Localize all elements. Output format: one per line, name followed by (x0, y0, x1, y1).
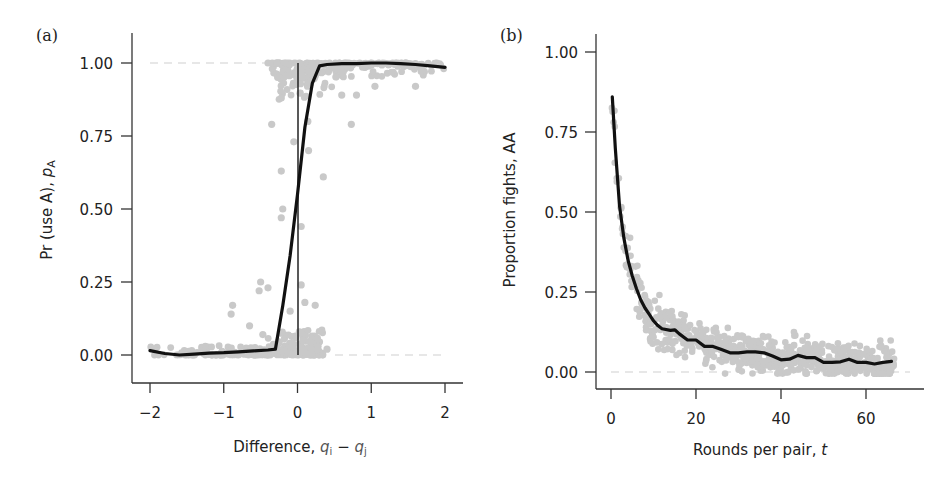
data-point (762, 358, 769, 365)
data-point (371, 83, 378, 90)
data-point (877, 337, 884, 344)
data-point (309, 60, 316, 67)
data-point (281, 336, 288, 343)
data-point (782, 339, 789, 346)
data-point (661, 347, 668, 354)
data-point (278, 167, 285, 174)
data-point (790, 367, 797, 374)
data-point (340, 74, 347, 81)
x-tick-label: 0 (606, 410, 616, 428)
data-point (869, 348, 876, 355)
data-point (282, 60, 289, 67)
data-point (646, 321, 653, 328)
data-point (815, 362, 822, 369)
y-tick-label: 0.75 (80, 128, 113, 146)
data-point (835, 340, 842, 347)
data-point (682, 354, 689, 361)
data-point (687, 322, 694, 329)
data-point (305, 147, 312, 154)
data-point (791, 329, 798, 336)
data-point (412, 83, 419, 90)
data-point (348, 121, 355, 128)
data-point (302, 349, 309, 356)
data-point (727, 343, 734, 350)
data-point (827, 366, 834, 373)
data-point (301, 299, 308, 306)
data-point (293, 70, 300, 77)
data-point (316, 91, 323, 98)
y-tick-label: 0.00 (545, 364, 578, 382)
data-point (278, 214, 285, 221)
data-point (228, 345, 235, 352)
x-tick-label: −2 (139, 404, 161, 422)
data-point (388, 69, 395, 76)
y-tick-label: 0.00 (80, 347, 113, 365)
data-point (251, 352, 258, 359)
data-point (697, 325, 704, 332)
data-point (299, 337, 306, 344)
panel-a-x-axis-label: Difference, qi − qj (233, 438, 367, 457)
panel-a-x-axis: −2−1012 (132, 383, 463, 422)
data-point (246, 322, 253, 329)
data-point (314, 335, 321, 342)
data-point (264, 284, 271, 291)
data-point (353, 92, 360, 99)
data-point (887, 337, 894, 344)
panel-b-y-axis-label: Proportion fights, AA (501, 132, 519, 288)
data-point (290, 351, 297, 358)
data-point (167, 344, 174, 351)
data-point (775, 368, 782, 375)
data-point (257, 278, 264, 285)
data-point (804, 333, 811, 340)
panel-b-fitted-curve (612, 97, 891, 364)
data-point (370, 68, 377, 75)
data-point (264, 59, 271, 66)
data-point (656, 292, 663, 299)
data-point (287, 308, 294, 315)
data-point (886, 369, 893, 376)
panel-b-scatter-points (609, 105, 898, 377)
data-point (758, 340, 765, 347)
data-point (320, 173, 327, 180)
data-point (328, 83, 335, 90)
data-point (713, 329, 720, 336)
data-point (735, 334, 742, 341)
y-tick-label: 0.75 (545, 124, 578, 142)
data-point (333, 74, 340, 81)
x-tick-label: 40 (771, 410, 790, 428)
data-point (651, 298, 658, 305)
data-point (730, 359, 737, 366)
data-point (803, 362, 810, 369)
data-point (278, 82, 285, 89)
data-point (716, 357, 723, 364)
data-point (338, 92, 345, 99)
panel-a-y-axis-label: Pr (use A), pA (38, 160, 58, 260)
data-point (296, 328, 303, 335)
data-point (256, 287, 263, 294)
data-point (274, 351, 281, 358)
data-point (316, 328, 323, 335)
data-point (796, 365, 803, 372)
data-point (335, 66, 342, 73)
data-point (259, 331, 266, 338)
data-point (312, 302, 319, 309)
data-point (681, 347, 688, 354)
data-point (634, 262, 641, 269)
y-tick-label: 0.25 (545, 284, 578, 302)
data-point (819, 350, 826, 357)
figure: (a) 0.000.250.500.751.00 −2−1012 Pr (use… (0, 0, 952, 484)
data-point (708, 334, 715, 341)
x-tick-label: 2 (440, 404, 450, 422)
data-point (749, 358, 756, 365)
data-point (838, 363, 845, 370)
data-point (697, 331, 704, 338)
data-point (279, 205, 286, 212)
data-point (307, 338, 314, 345)
panel-a-label: (a) (36, 26, 58, 45)
data-point (673, 352, 680, 359)
data-point (703, 358, 710, 365)
panel-b-x-axis: 0204060 (596, 389, 924, 428)
data-point (282, 72, 289, 79)
data-point (636, 313, 643, 320)
data-point (321, 83, 328, 90)
